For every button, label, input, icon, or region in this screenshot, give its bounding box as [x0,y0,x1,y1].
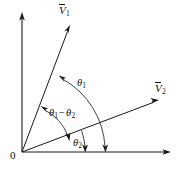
vector-angle-diagram: V1 V2 θ1 θ1−θ2 θ2 0 [0,0,177,172]
theta2-label: θ2 [73,138,82,150]
minus-operator: − [59,107,65,118]
vector-v2-subscript: 2 [162,87,166,96]
theta2-subscript: 2 [78,141,82,150]
vector-v1-symbol: V [59,5,66,16]
vector-v1-label: V1 [59,5,70,18]
theta1-minus-theta2-subscript-2: 2 [71,111,75,120]
axes-group [19,12,171,155]
theta1-label: θ1 [77,78,86,90]
vector-v1-group [22,25,70,152]
vector-v2-group [22,98,159,152]
vector-v2-symbol: V [155,83,162,94]
theta1-subscript: 1 [82,81,86,90]
theta1-minus-theta2-label: θ1−θ2 [49,108,75,120]
origin-label: 0 [10,150,16,161]
vector-v1-subscript: 1 [66,9,70,18]
theta1-arc-arrowhead-start [59,76,66,83]
diagram-canvas [0,0,177,172]
vector-v2-label: V2 [155,83,166,96]
vector-v2-line [22,103,153,153]
vector-v1-line [22,32,68,153]
theta1-minus-theta2-subscript-1: 1 [54,111,58,120]
theta2-arc-group [82,131,88,153]
